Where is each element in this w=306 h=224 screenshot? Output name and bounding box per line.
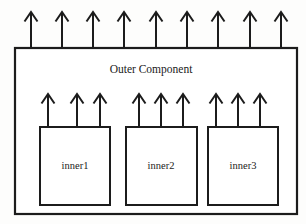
outer-outgoing-arrow-2 [56,12,69,48]
component-diagram: Outer Component inner1inner2inner3 [0,0,306,224]
outer-outgoing-arrow-8 [244,12,257,48]
outer-outgoing-arrow-3 [87,12,100,48]
outer-outgoing-arrow-4 [118,12,131,48]
diagram-canvas: Outer Component inner1inner2inner3 [0,0,306,224]
inner-component-label-2: inner2 [148,160,175,171]
outer-outgoing-arrow-5 [150,12,163,48]
outer-outgoing-arrow-6 [181,12,194,48]
outer-outgoing-arrow-1 [25,12,38,48]
inner-component-label-1: inner1 [62,160,89,171]
outer-component-label: Outer Component [110,63,194,76]
outer-outgoing-arrow-9 [275,12,288,48]
outer-outgoing-arrow-7 [212,12,225,48]
inner-component-label-3: inner3 [230,160,257,171]
outer-component-outgoing-arrows-group [25,12,288,48]
